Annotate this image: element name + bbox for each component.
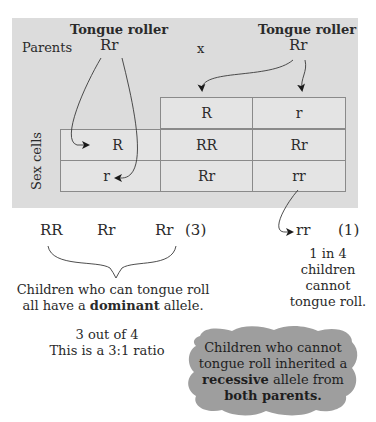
recessive-caption-4: tongue roll. — [280, 294, 376, 309]
outcome-Rr-2: Rr — [155, 223, 173, 238]
arrow-right-r — [302, 60, 306, 90]
recessive-caption-1: 1 in 4 — [280, 246, 376, 261]
ratio-line1: 3 out of 4 — [0, 327, 214, 342]
outcome-rr: rr — [296, 223, 310, 238]
outcome-RR: RR — [40, 223, 63, 238]
dominant-count: (3) — [185, 223, 206, 238]
callout-line1: Children who cannot — [196, 340, 350, 356]
arrow-left-r — [116, 58, 137, 178]
ratio-line2: This is a 3:1 ratio — [0, 343, 214, 358]
recessive-count: (1) — [338, 223, 359, 238]
dominant-keyword: dominant — [90, 298, 160, 313]
outcome-Rr-1: Rr — [97, 223, 115, 238]
callout-text: Children who cannot tongue roll inherite… — [196, 340, 350, 404]
callout-line4: both parents. — [196, 388, 350, 404]
dominant-caption-line1: Children who can tongue roll — [0, 282, 226, 297]
callout-line2: tongue roll inherited a — [196, 356, 350, 372]
recessive-caption-2: children — [280, 262, 376, 277]
callout-line3: recessive allele from — [196, 372, 350, 388]
recessive-caption-3: cannot — [280, 278, 376, 293]
arrow-left-R — [71, 58, 101, 145]
arrow-right-R — [202, 60, 293, 90]
dominant-brace — [48, 246, 176, 278]
dominant-caption-line2: all have a dominant allele. — [0, 298, 226, 313]
recessive-keyword: recessive — [202, 372, 269, 387]
